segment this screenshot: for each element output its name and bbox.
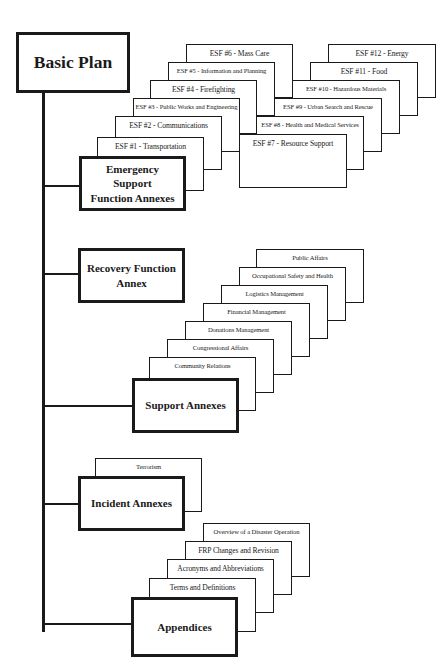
terrorism-label: Terrorism [136,463,161,470]
acronyms-label: Acronyms and Abbreviations [177,564,263,573]
esf-7-box: ESF #7 - Resource Support [239,134,347,188]
community-relations-label: Community Relations [174,362,230,369]
recovery-annex-box: Recovery Function Annex [78,248,185,303]
connector-incident [42,503,80,505]
terms-definitions-label: Terms and Definitions [170,583,236,592]
public-affairs-label: Public Affairs [292,254,327,261]
frp-changes-label: FRP Changes and Revision [198,546,279,555]
basic-plan-box: Basic Plan [16,32,130,93]
recovery-label-line1: Recovery Function [87,262,176,274]
connector-recovery [42,273,80,275]
esf-annexes-label-line1: Emergency Support [106,163,159,189]
esf-5-label: ESF #5 - Information and Planning [177,67,267,74]
esf-11-label: ESF #11 - Food [341,67,388,76]
incident-annexes-box: Incident Annexes [78,476,185,531]
esf-1-label: ESF #1 - Transportation [115,142,186,151]
financial-management-label: Financial Management [227,308,286,315]
esf-annexes-label-line2: Function Annexes [90,192,174,204]
appendices-label: Appendices [157,620,211,634]
esf-10-label: ESF #10 - Hazardous Materials [306,85,386,92]
congressional-affairs-label: Congressional Affairs [193,344,248,351]
esf-6-label: ESF #6 - Mass Care [210,49,269,58]
connector-appendices [42,623,134,625]
esf-annexes-box: Emergency Support Function Annexes [79,156,186,211]
esf-2-label: ESF #2 - Communications [129,121,208,130]
esf-annexes-label: Emergency Support Function Annexes [86,162,179,205]
trunk-line [42,92,45,632]
esf-9-label: ESF #9 - Urban Search and Rescue [283,103,373,110]
esf-12-label: ESF #12 - Energy [356,49,409,58]
connector-support [42,405,134,407]
recovery-annex-label: Recovery Function Annex [87,261,176,290]
esf-8-label: ESF #8 - Health and Medical Services [261,121,358,128]
donations-management-label: Donations Management [208,326,269,333]
connector-esf [42,185,80,187]
appendices-box: Appendices [131,597,238,657]
support-annexes-label: Support Annexes [145,398,225,412]
occupational-safety-label: Occupational Safety and Health [252,272,333,279]
recovery-label-line2: Annex [116,277,147,289]
logistics-management-label: Logistics Management [245,290,303,297]
incident-annexes-label: Incident Annexes [91,496,172,510]
esf-3-label: ESF #3 - Public Works and Engineering [136,103,238,110]
esf-7-label: ESF #7 - Resource Support [253,139,334,148]
basic-plan-label: Basic Plan [34,51,112,74]
support-annexes-box: Support Annexes [132,378,239,433]
esf-4-label: ESF #4 - Firefighting [172,85,235,94]
overview-disaster-operation-label: Overview of a Disaster Operation [214,528,300,535]
